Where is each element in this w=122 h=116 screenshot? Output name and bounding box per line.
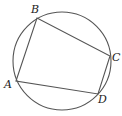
quadrilateral-abcd: [16, 18, 110, 94]
vertex-label-c: C: [112, 51, 121, 64]
vertex-label-b: B: [30, 3, 39, 16]
vertex-label-d: D: [97, 93, 107, 106]
vertex-label-a: A: [3, 78, 12, 91]
cyclic-quadrilateral-diagram: A B C D: [0, 0, 122, 116]
circumcircle: [13, 12, 111, 110]
